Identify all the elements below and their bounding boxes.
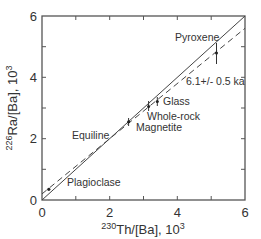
pyroxene-label: Pyroxene xyxy=(175,31,220,43)
isochron-line xyxy=(42,28,245,194)
magnetite-label: Magnetite xyxy=(136,121,182,133)
x-tick-label: 4 xyxy=(174,205,181,220)
equiline xyxy=(42,16,245,200)
x-tick-label: 0 xyxy=(38,205,45,220)
y-axis-title: 226Ra/[Ba], 103 xyxy=(4,65,20,150)
age-label: 6.1+/- 0.5 ka xyxy=(186,75,245,87)
plagioclase-point xyxy=(47,188,50,191)
y-tick-label: 2 xyxy=(30,131,37,146)
y-tick-label: 0 xyxy=(30,193,37,208)
y-tick-label: 4 xyxy=(30,70,37,85)
equiline-label: Equiline xyxy=(72,129,110,141)
isochron-chart: 0 2 4 6 0 2 4 6 230Th/[Ba], 103 226Ra/[B… xyxy=(0,0,261,239)
x-tick-label: 2 xyxy=(106,205,113,220)
x-axis-title: 230Th/[Ba], 103 xyxy=(101,221,185,237)
x-tick-label: 6 xyxy=(241,205,248,220)
pyroxene-point xyxy=(215,43,218,64)
plagioclase-label: Plagioclase xyxy=(67,176,121,188)
glass-label: Glass xyxy=(163,95,190,107)
y-tick-label: 6 xyxy=(30,9,37,24)
magnetite-point xyxy=(127,118,130,126)
